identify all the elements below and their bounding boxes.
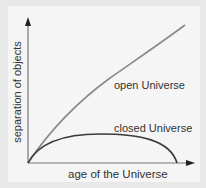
x-axis-arrow-icon — [186, 160, 195, 166]
x-axis — [28, 160, 195, 166]
closed-universe-curve — [28, 134, 177, 163]
y-axis-arrow-icon — [25, 17, 31, 26]
y-axis-label: separation of objects — [12, 41, 23, 143]
closed-universe-label: closed Universe — [114, 123, 192, 134]
y-axis — [25, 17, 31, 163]
universe-expansion-diagram — [0, 0, 206, 188]
open-universe-label: open Universe — [114, 80, 185, 91]
x-axis-label: age of the Universe — [68, 169, 168, 181]
